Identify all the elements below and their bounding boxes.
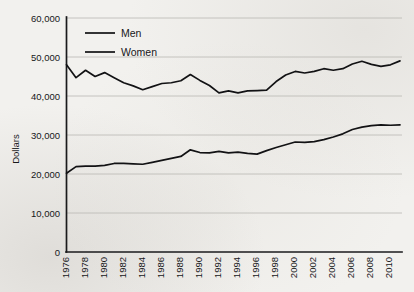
y-axis-tick-labels: 60,000 50,000 40,000 30,000 20,000 10,00… [31, 13, 60, 258]
chart-legend: Men Women [85, 27, 157, 58]
x-tick-label: 1988 [174, 257, 185, 278]
x-tick-label: 2000 [288, 257, 299, 278]
y-tick-label: 60,000 [31, 13, 60, 24]
x-tick-label: 1992 [212, 257, 223, 278]
x-tick-label: 2008 [364, 257, 375, 278]
y-tick-label: 50,000 [31, 52, 60, 63]
x-tick-label: 1998 [269, 257, 280, 278]
x-tick-label: 1982 [117, 257, 128, 278]
legend-label-women: Women [121, 46, 157, 58]
y-tick-label: 40,000 [31, 91, 60, 102]
y-tick-label: 30,000 [31, 130, 60, 141]
legend-entry-men: Men [85, 27, 142, 39]
series-line-men [67, 61, 401, 93]
y-tick-label: 10,000 [31, 208, 60, 219]
line-chart: 60,000 50,000 40,000 30,000 20,000 10,00… [0, 0, 414, 292]
x-tick-label: 2002 [307, 257, 318, 278]
legend-entry-women: Women [85, 46, 157, 58]
x-tick-label: 1996 [250, 257, 261, 278]
x-tick-label: 1984 [136, 257, 147, 278]
x-axis-tick-labels: 1976 1978 1980 1982 1984 1986 1988 1990 … [60, 257, 394, 278]
y-axis-title: Dollars [10, 134, 21, 164]
x-tick-label: 1978 [79, 257, 90, 278]
x-tick-label: 2010 [383, 257, 394, 278]
x-tick-label: 2004 [326, 257, 337, 278]
x-tick-label: 1994 [231, 257, 242, 278]
x-tick-label: 2006 [345, 257, 356, 278]
y-tick-label: 0 [55, 247, 60, 258]
x-tick-label: 1976 [60, 257, 71, 278]
x-tick-label: 1986 [155, 257, 166, 278]
x-tick-label: 1980 [98, 257, 109, 278]
series-line-women [67, 125, 401, 173]
data-series-group [67, 61, 401, 173]
x-tick-label: 1990 [193, 257, 204, 278]
axes [66, 17, 402, 252]
y-tick-label: 20,000 [31, 169, 60, 180]
gridlines [66, 18, 402, 213]
legend-label-men: Men [121, 27, 142, 39]
chart-figure: 60,000 50,000 40,000 30,000 20,000 10,00… [0, 0, 414, 292]
